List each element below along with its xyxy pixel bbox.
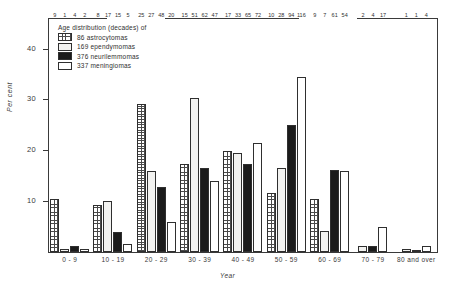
bar-astrocytomas: 10	[267, 193, 276, 252]
bar-wrapper: 10	[267, 18, 276, 252]
bar-value-label: 7	[323, 12, 326, 18]
bar-meningiomas: 17	[378, 227, 387, 252]
legend-title: Age distribution (decades) of	[58, 24, 186, 31]
bar-value-label: 2	[83, 12, 86, 18]
x-axis-tick-label: 60 - 69	[308, 256, 351, 263]
bar-astrocytomas: 17	[223, 151, 232, 252]
bar-value-label: 25	[138, 12, 144, 18]
bar-wrapper: 7	[320, 18, 329, 252]
x-axis-tick-labels: 0 - 910 - 1920 - 2930 - 3940 - 4950 - 59…	[48, 256, 438, 270]
bar-wrapper: 17	[378, 18, 387, 252]
bar-astrocytomas: 25	[137, 104, 146, 252]
legend-swatch-neurilemmomas	[58, 52, 72, 60]
y-axis-tick-label: 40	[27, 44, 36, 53]
bar-value-label: 1	[415, 12, 418, 18]
bar-value-label: 5	[126, 12, 129, 18]
legend: Age distribution (decades) of 86 astrocy…	[58, 24, 186, 71]
bar-neurilemmomas: 48	[157, 187, 166, 252]
bar-ependymomas: 2	[358, 246, 367, 252]
bar-wrapper: 54	[340, 18, 349, 252]
bar-ependymomas: 7	[320, 231, 329, 252]
bar-neurilemmomas: 94	[287, 125, 296, 252]
bar-astrocytomas: 15	[180, 164, 189, 253]
bar-value-label: 9	[313, 12, 316, 18]
bar-value-label: 20	[168, 12, 174, 18]
bar-value-label: 27	[148, 12, 154, 18]
bar-neurilemmomas: 61	[330, 170, 339, 252]
legend-swatch-ependymomas	[58, 43, 72, 51]
bar-group: 2417	[351, 18, 394, 252]
legend-swatch-astrocytomas	[58, 33, 72, 41]
bar-group: 102894116	[265, 18, 308, 252]
bar-value-label: 33	[235, 12, 241, 18]
bar-wrapper: 72	[253, 18, 262, 252]
bar-neurilemmomas: 15	[113, 232, 122, 252]
bar-value-label: 28	[278, 12, 284, 18]
y-axis-tick: 20	[0, 150, 48, 151]
bar-value-label: 8	[96, 12, 99, 18]
bar-wrapper: 1	[412, 18, 421, 252]
bar-value-label: 72	[255, 12, 261, 18]
bar-ependymomas: 1	[60, 249, 69, 252]
legend-swatch-meningiomas	[58, 62, 72, 70]
x-axis-tick-label: 10 - 19	[91, 256, 134, 263]
legend-item-ependymomas: 169 ependymomas	[58, 43, 186, 51]
bar-ependymomas: 27	[147, 171, 156, 252]
legend-label: 86 astrocytomas	[77, 34, 128, 41]
bar-wrapper: 9	[310, 18, 319, 252]
x-axis-tick-label: 30 - 39	[178, 256, 221, 263]
bar-ependymomas: 33	[233, 153, 242, 252]
bar-value-label: 54	[342, 12, 348, 18]
bar-value-label: 51	[192, 12, 198, 18]
legend-item-neurilemmomas: 376 neurilemmomas	[58, 52, 186, 60]
bar-value-label: 62	[202, 12, 208, 18]
bar-wrapper: 4	[368, 18, 377, 252]
bar-group: 114	[395, 18, 438, 252]
bar-meningiomas: 54	[340, 171, 349, 252]
bar-meningiomas: 116	[297, 77, 306, 252]
bar-neurilemmomas: 4	[368, 246, 377, 252]
bar-value-label: 4	[73, 12, 76, 18]
legend-item-meningiomas: 337 meningiomas	[58, 62, 186, 70]
bar-astrocytomas: 9	[50, 199, 59, 252]
y-axis-tick: 40	[0, 49, 48, 50]
bar-value-label: 17	[105, 12, 111, 18]
legend-label: 169 ependymomas	[77, 43, 135, 50]
x-axis-tick-label: 80 and over	[395, 256, 438, 263]
y-axis-tick: 30	[0, 99, 48, 100]
bar-value-label: 1	[405, 12, 408, 18]
bar-value-label: 15	[182, 12, 188, 18]
y-axis-tick-label: 10	[27, 196, 36, 205]
x-axis-tick-label: 70 - 79	[351, 256, 394, 263]
bar-value-label: 65	[245, 12, 251, 18]
chart-figure: Per cent 10203040 9142817155252748201551…	[0, 0, 455, 303]
bar-wrapper: 116	[297, 18, 306, 252]
bar-group: 976154	[308, 18, 351, 252]
bar-neurilemmomas: 1	[412, 250, 421, 252]
legend-label: 337 meningiomas	[77, 62, 131, 69]
bar-wrapper: 94	[287, 18, 296, 252]
bar-ependymomas: 51	[190, 98, 199, 252]
bar-group: 17336572	[221, 18, 264, 252]
bar-wrapper: 4	[422, 18, 431, 252]
y-axis-title: Per cent	[6, 82, 13, 112]
bar-wrapper: 17	[223, 18, 232, 252]
bar-wrapper: 51	[190, 18, 199, 252]
bar-wrapper: 65	[243, 18, 252, 252]
bar-value-label: 15	[115, 12, 121, 18]
bar-wrapper: 28	[277, 18, 286, 252]
bar-value-label: 4	[425, 12, 428, 18]
bar-meningiomas: 20	[167, 222, 176, 252]
bar-value-label: 61	[332, 12, 338, 18]
y-axis-tick-label: 30	[27, 94, 36, 103]
x-axis-tick-label: 0 - 9	[48, 256, 91, 263]
bar-meningiomas: 47	[210, 181, 219, 252]
bar-value-label: 10	[268, 12, 274, 18]
bar-wrapper: 47	[210, 18, 219, 252]
bar-wrapper: 61	[330, 18, 339, 252]
x-axis-title: Year	[0, 272, 455, 279]
legend-rows: 86 astrocytomas169 ependymomas376 neuril…	[58, 33, 186, 70]
x-axis-tick-label: 40 - 49	[221, 256, 264, 263]
bar-neurilemmomas: 62	[200, 168, 209, 252]
bar-value-label: 17	[225, 12, 231, 18]
